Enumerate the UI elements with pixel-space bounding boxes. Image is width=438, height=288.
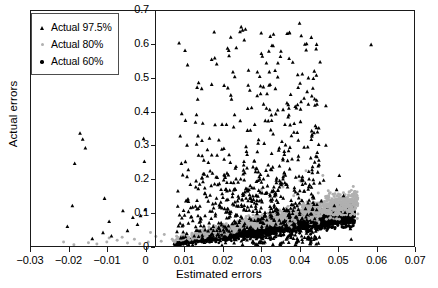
x-tickmark [107,247,108,252]
y-tickmark [151,10,155,11]
x-tickmark [338,247,339,252]
x-ticklabel: −0.02 [55,254,82,266]
x-axis-label: Estimated errors [0,268,438,280]
x-tickmark [300,247,301,252]
legend-item-1[interactable]: Actual 80% [37,36,118,53]
y-tickmark [151,179,155,180]
legend-label-2: Actual 60% [51,56,103,67]
y-ticklabel: 0 [109,241,149,252]
x-tickmark [146,247,147,252]
x-ticklabel: −0.03 [17,254,44,266]
x-tickmark [415,247,416,252]
legend-item-2[interactable]: Actual 60% [37,53,118,70]
x-ticklabel: 0.04 [289,254,310,266]
y-tickmark [151,112,155,113]
y-ticklabel: 0.4 [109,106,149,117]
y-tickmark [151,78,155,79]
x-ticklabel: 0.02 [212,254,233,266]
x-ticklabel: −0.01 [94,254,121,266]
y-ticklabel: 0.1 [109,207,149,218]
x-ticklabel: 0.05 [328,254,349,266]
y-tickmark [151,145,155,146]
scatter-plot-figure: 00.10.20.30.40.50.60.7 −0.03−0.02−0.0100… [0,0,438,288]
x-tickmark [223,247,224,252]
y-tickmark [151,44,155,45]
circle-icon-gray [37,39,48,50]
x-ticklabel: 0.06 [366,254,387,266]
triangle-icon [37,22,48,33]
legend-item-0[interactable]: Actual 97.5% [37,19,118,36]
x-tickmark [261,247,262,252]
x-ticklabel: 0.07 [405,254,426,266]
x-tickmark [30,247,31,252]
x-ticklabel: 0 [143,254,149,266]
x-ticklabel: 0.01 [174,254,195,266]
legend-label-0: Actual 97.5% [51,22,112,33]
y-ticklabel: 0.3 [109,139,149,150]
x-ticklabel: 0.03 [251,254,272,266]
y-tickmark [151,213,155,214]
x-tickmark [184,247,185,252]
y-ticklabel: 0.2 [109,173,149,184]
y-axis-label: Actual errors [7,54,19,174]
legend: Actual 97.5% Actual 80% Actual 60% [31,13,119,75]
y-tickmark [151,247,155,248]
x-tickmark [377,247,378,252]
circle-icon-black [37,56,48,67]
legend-label-1: Actual 80% [51,39,103,50]
x-tickmark [69,247,70,252]
y-axis-line [155,10,156,247]
